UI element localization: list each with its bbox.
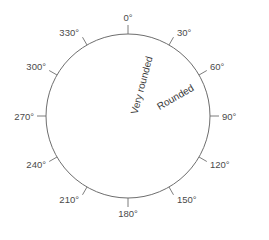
tick-330 bbox=[83, 37, 88, 45]
rose-diagram-svg: 0° 30° 60° 90° 120° 150° 180° 210° 240° … bbox=[0, 0, 269, 240]
rose-diagram: 0° 30° 60° 90° 120° 150° 180° 210° 240° … bbox=[0, 0, 269, 240]
tick-210 bbox=[83, 187, 88, 195]
circle-outline bbox=[46, 34, 210, 198]
tick-label-150: 150° bbox=[177, 194, 197, 205]
tick-label-300: 300° bbox=[26, 61, 46, 72]
tick-300 bbox=[49, 71, 57, 76]
tick-120 bbox=[199, 157, 207, 162]
tick-150 bbox=[169, 187, 174, 195]
tick-label-240: 240° bbox=[26, 159, 46, 170]
tick-label-270: 270° bbox=[14, 111, 34, 122]
tick-label-180: 180° bbox=[118, 208, 138, 219]
tick-240 bbox=[49, 157, 57, 162]
tick-label-120: 120° bbox=[210, 159, 230, 170]
tick-label-90: 90° bbox=[222, 111, 237, 122]
tick-30 bbox=[169, 37, 174, 45]
tick-60 bbox=[199, 71, 207, 76]
tick-label-30: 30° bbox=[177, 27, 192, 38]
tick-label-60: 60° bbox=[210, 61, 225, 72]
tick-label-0: 0° bbox=[123, 12, 132, 23]
tick-label-330: 330° bbox=[59, 27, 79, 38]
tick-label-210: 210° bbox=[59, 194, 79, 205]
